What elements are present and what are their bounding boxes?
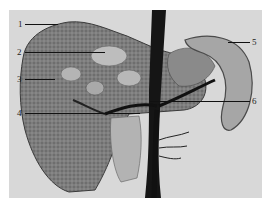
label-3: 3 (17, 75, 22, 84)
quadrate-lobe (91, 46, 127, 66)
leader-line-6 (150, 101, 250, 102)
figure-panel (9, 10, 262, 198)
label-5: 5 (252, 38, 257, 47)
label-2: 2 (17, 48, 22, 57)
leader-line-4 (25, 113, 140, 114)
label-6: 6 (252, 97, 257, 106)
leader-line-3 (25, 79, 55, 80)
leader-line-1 (25, 24, 58, 25)
leader-line-5 (228, 42, 250, 43)
label-1: 1 (18, 20, 23, 29)
portal-vein (154, 110, 157, 198)
leader-line-2 (25, 52, 105, 53)
gallbladder (110, 116, 141, 182)
liver-illustration (9, 10, 262, 198)
label-4: 4 (17, 109, 22, 118)
